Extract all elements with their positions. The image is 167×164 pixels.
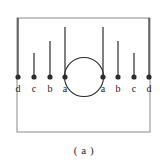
- node-dot-c-right: [131, 74, 136, 79]
- center-circle: [65, 58, 104, 97]
- figure-caption: ( a ): [74, 144, 95, 157]
- figure-frame: [17, 18, 150, 132]
- node-label-a-left: a: [63, 83, 68, 94]
- node-dot-b-right: [115, 74, 120, 79]
- node-label-d-right: d: [147, 83, 152, 94]
- node-label-a-right: a: [101, 83, 106, 94]
- node-dot-c-left: [31, 74, 36, 79]
- node-label-b-right: b: [116, 83, 121, 94]
- node-label-c-right: c: [132, 83, 137, 94]
- node-dot-d-right: [146, 74, 151, 79]
- node-dots-group: [15, 74, 151, 79]
- node-dot-a-left: [62, 74, 67, 79]
- figure-diagram: dcbaabcd ( a ): [0, 0, 167, 164]
- node-labels-group: dcbaabcd: [16, 83, 152, 94]
- vertical-stems-group: [18, 18, 149, 77]
- node-dot-a-right: [100, 74, 105, 79]
- node-dot-b-left: [47, 74, 52, 79]
- node-label-d-left: d: [16, 83, 21, 94]
- node-label-b-left: b: [48, 83, 53, 94]
- node-dot-d-left: [15, 74, 20, 79]
- figure-container: dcbaabcd ( a ): [0, 0, 167, 164]
- node-label-c-left: c: [32, 83, 37, 94]
